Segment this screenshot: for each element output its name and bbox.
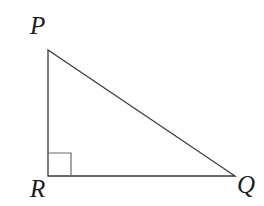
geometry-figure: P R Q — [0, 0, 264, 206]
vertex-label-p: P — [30, 13, 45, 38]
vertex-label-q: Q — [237, 172, 255, 197]
vertex-label-r: R — [30, 176, 45, 201]
right-angle-marker — [48, 153, 71, 176]
triangle-outline — [48, 50, 235, 176]
